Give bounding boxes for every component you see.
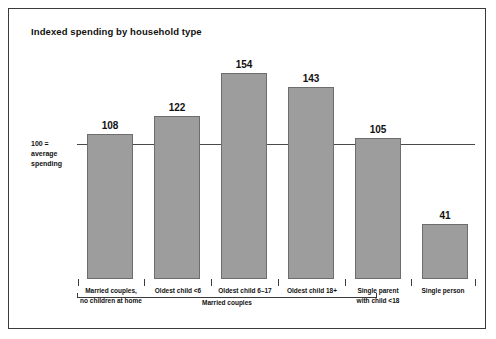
category-tick-4 [345, 279, 346, 286]
category-tick-6 [475, 279, 476, 286]
bar-value-oldest-child-18-plus: 143 [288, 73, 334, 84]
group-bracket-label: Married couples [77, 299, 377, 306]
bar-value-single-person: 41 [422, 210, 468, 221]
category-tick-1 [144, 279, 145, 286]
reference-line-label-line-1: 100 = [31, 139, 77, 149]
bar-oldest-child-6-17[interactable] [221, 73, 267, 279]
bar-oldest-child-under-6[interactable] [154, 116, 200, 279]
category-tick-2 [211, 279, 212, 286]
bar-value-oldest-child-6-17: 154 [221, 59, 267, 70]
reference-line-label-line-2: average [31, 149, 77, 159]
category-tick-5 [411, 279, 412, 286]
group-bracket [77, 293, 377, 298]
category-tick-3 [278, 279, 279, 286]
category-label-single-person: Single person [405, 286, 481, 296]
bar-married-no-children[interactable] [87, 134, 133, 279]
reference-line-label-line-3: spending [31, 159, 77, 169]
category-label-line: Single person [405, 286, 481, 296]
chart-title: Indexed spending by household type [31, 26, 202, 37]
bar-value-single-parent: 105 [355, 124, 401, 135]
reference-line-label: 100 = average spending [31, 139, 77, 169]
bar-single-person[interactable] [422, 224, 468, 279]
bar-value-married-no-children: 108 [87, 120, 133, 131]
reference-line-100 [77, 144, 475, 145]
bar-single-parent[interactable] [355, 138, 401, 279]
category-tick-0 [78, 279, 79, 286]
chart-frame: Indexed spending by household type 100 =… [8, 8, 486, 329]
bar-oldest-child-18-plus[interactable] [288, 87, 334, 279]
plot-area: 108 122 154 143 105 41 [77, 47, 475, 279]
bar-value-oldest-child-under-6: 122 [154, 102, 200, 113]
